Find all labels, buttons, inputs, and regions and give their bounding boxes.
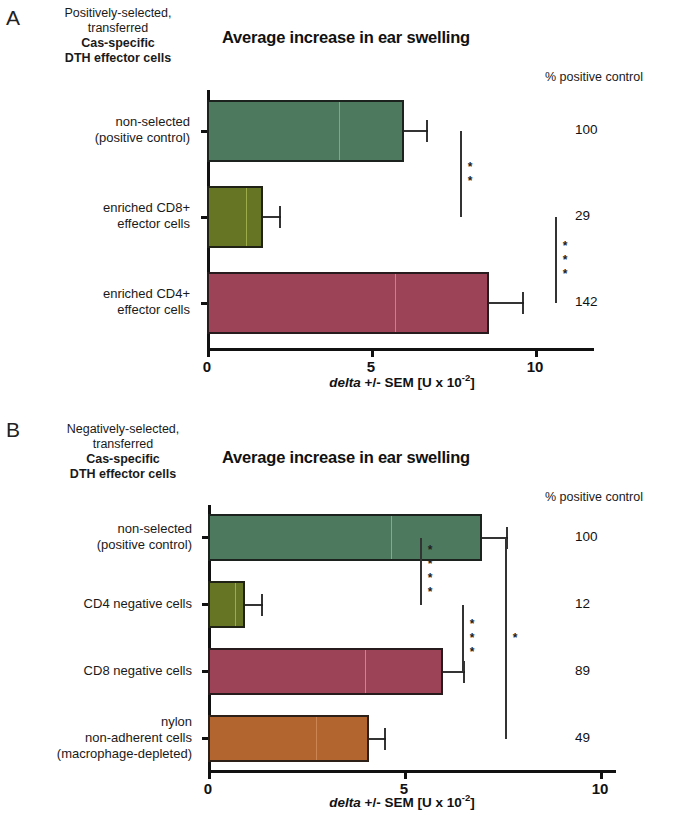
category-label-line: CD4 negative cells — [7, 596, 192, 612]
bar — [208, 715, 369, 762]
significance-bracket: ** — [460, 131, 480, 217]
bar — [207, 272, 489, 334]
axis-caption-mid: +/- SEM [U x 10 — [361, 375, 462, 390]
x-axis-tick — [600, 772, 603, 779]
category-label-line: non-adherent cells — [7, 730, 192, 746]
error-bar-cap — [279, 206, 281, 228]
significance-line — [460, 131, 462, 217]
axis-caption-post: ] — [470, 375, 475, 390]
error-bar-cap — [426, 120, 428, 142]
axis-caption-delta: delta — [329, 375, 361, 390]
significance-line — [505, 538, 507, 739]
category-label: CD4 negative cells — [7, 596, 192, 612]
error-bar — [245, 594, 263, 616]
axis-caption-mid: +/- SEM [U x 10 — [361, 795, 462, 810]
bar-seam — [339, 102, 340, 160]
significance-bracket: **** — [420, 538, 440, 605]
axis-caption-post: ] — [470, 795, 475, 810]
error-bar-stem — [404, 130, 429, 132]
error-bar-cap — [261, 594, 263, 616]
panel-b-plot: 0510non-selected(positive control)100CD4… — [0, 410, 696, 790]
category-label-line: CD8 negative cells — [7, 663, 192, 679]
panel-a-axis-caption: delta +/- SEM [U x 10-2] — [207, 372, 597, 390]
category-label: nylonnon-adherent cells(macrophage-deple… — [7, 714, 192, 762]
axis-caption-exponent: -2 — [462, 792, 470, 803]
x-axis-tick — [404, 772, 407, 779]
percent-positive-control-value: 89 — [575, 663, 590, 678]
significance-stars: * — [512, 631, 517, 645]
significance-stars: **** — [427, 543, 432, 599]
category-label: non-selected(positive control) — [7, 521, 192, 553]
panel-b: B Negatively-selected, transferred Cas-s… — [0, 410, 696, 822]
axis-caption-exponent: -2 — [462, 372, 470, 383]
category-label: enriched CD8+effector cells — [5, 200, 190, 232]
significance-bracket: *** — [462, 605, 482, 672]
error-bar-cap — [522, 292, 524, 314]
category-label-line: non-selected — [7, 521, 192, 537]
error-bar-stem — [489, 302, 523, 304]
category-label-line: effector cells — [5, 302, 190, 318]
category-label-line: (macrophage-depleted) — [7, 746, 192, 762]
bar — [208, 514, 482, 561]
bar — [207, 186, 263, 248]
bar — [208, 581, 245, 628]
bar-seam — [365, 650, 366, 693]
bar — [208, 648, 443, 695]
significance-bracket: *** — [555, 217, 575, 303]
category-label: enriched CD4+effector cells — [5, 286, 190, 318]
panel-a: A Positively-selected, transferred Cas-s… — [0, 0, 696, 410]
axis-caption-delta: delta — [329, 795, 361, 810]
x-axis-line — [208, 770, 616, 773]
category-label: CD8 negative cells — [7, 663, 192, 679]
panel-b-axis-caption: delta +/- SEM [U x 10-2] — [207, 792, 597, 810]
category-label: non-selected(positive control) — [5, 114, 190, 146]
x-axis-tick — [535, 350, 538, 357]
error-bar — [489, 292, 523, 314]
significance-bracket: * — [505, 538, 525, 739]
percent-positive-control-value: 12 — [575, 596, 590, 611]
bar-seam — [246, 188, 247, 246]
category-label-line: nylon — [7, 714, 192, 730]
significance-stars: *** — [469, 617, 474, 659]
bar-seam — [391, 516, 392, 559]
category-label-line: (positive control) — [7, 537, 192, 553]
panel-a-plot: 0510non-selected(positive control)100enr… — [0, 0, 696, 380]
error-bar — [263, 206, 281, 228]
category-label-line: effector cells — [5, 216, 190, 232]
significance-stars: *** — [562, 239, 567, 281]
bar-seam — [395, 274, 396, 332]
bar — [207, 100, 404, 162]
category-label-line: enriched CD8+ — [5, 200, 190, 216]
percent-positive-control-value: 49 — [575, 730, 590, 745]
significance-stars: ** — [467, 160, 472, 188]
percent-positive-control-value: 29 — [575, 208, 590, 223]
x-axis-tick — [208, 772, 211, 779]
category-label-line: non-selected — [5, 114, 190, 130]
percent-positive-control-value: 142 — [575, 294, 598, 309]
percent-positive-control-value: 100 — [575, 122, 598, 137]
percent-positive-control-value: 100 — [575, 529, 598, 544]
x-axis-tick — [371, 350, 374, 357]
significance-line — [555, 217, 557, 303]
significance-line — [462, 605, 464, 672]
category-label-line: (positive control) — [5, 130, 190, 146]
bar-seam — [316, 717, 317, 760]
error-bar — [404, 120, 429, 142]
bar-seam — [235, 583, 236, 626]
x-axis-tick — [207, 350, 210, 357]
error-bar-cap — [384, 728, 386, 750]
significance-line — [420, 538, 422, 605]
category-label-line: enriched CD4+ — [5, 286, 190, 302]
error-bar — [369, 728, 387, 750]
